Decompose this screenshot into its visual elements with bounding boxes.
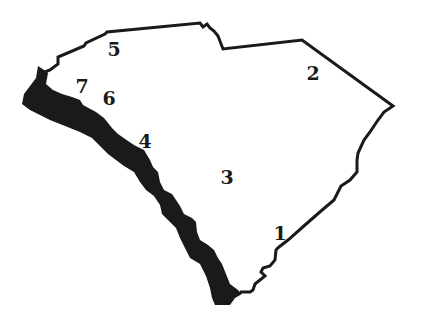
- state-border: [40, 23, 393, 292]
- region-label-4: 4: [138, 132, 151, 151]
- region-label-3: 3: [220, 168, 233, 187]
- region-label-6: 6: [102, 89, 115, 108]
- region-label-2: 2: [306, 64, 319, 83]
- region-label-5: 5: [107, 40, 120, 59]
- south-carolina-map: [0, 0, 422, 329]
- region-label-1: 1: [273, 224, 286, 243]
- river-border: [22, 66, 242, 305]
- region-label-7: 7: [75, 77, 88, 96]
